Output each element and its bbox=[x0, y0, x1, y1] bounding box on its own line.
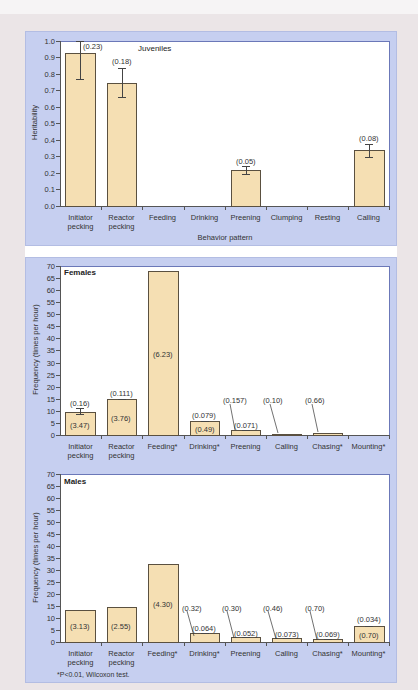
annotation: (0.069) bbox=[316, 630, 340, 639]
y-tick bbox=[56, 266, 61, 267]
y-tick bbox=[56, 606, 61, 607]
x-label-line: Reactor bbox=[101, 213, 142, 222]
x-tick bbox=[307, 206, 308, 210]
y-tick bbox=[56, 387, 61, 388]
x-label-line: pecking bbox=[101, 222, 142, 231]
x-label-line: Calling bbox=[266, 442, 307, 451]
error-cap bbox=[365, 144, 373, 145]
annotation: (0.10) bbox=[263, 396, 283, 405]
annotation: (0.079) bbox=[192, 411, 216, 420]
x-tick bbox=[389, 206, 390, 210]
x-label-chasing: Chasing* bbox=[307, 442, 348, 451]
error-bar bbox=[369, 144, 370, 157]
x-label-line: Resting bbox=[307, 213, 348, 222]
x-tick bbox=[184, 642, 185, 646]
y-tick bbox=[56, 522, 61, 523]
y-tick-label: 20 bbox=[31, 383, 55, 392]
x-label-clumping: Clumping bbox=[266, 213, 307, 222]
juveniles-y-axis bbox=[60, 41, 61, 207]
x-label-line: Drinking* bbox=[184, 649, 225, 658]
y-tick-label: 5 bbox=[31, 419, 55, 428]
error-cap bbox=[201, 633, 209, 634]
x-label-line: pecking bbox=[60, 451, 101, 460]
females-title: Females bbox=[64, 268, 96, 277]
juveniles-title: Juveniles bbox=[138, 44, 171, 53]
panel-gap bbox=[25, 246, 397, 257]
annotation: (0.157) bbox=[223, 396, 247, 405]
y-tick bbox=[56, 375, 61, 376]
annotation: (0.49) bbox=[195, 425, 215, 434]
y-tick-label: 30 bbox=[31, 359, 55, 368]
y-tick-label: 0.8 bbox=[31, 70, 55, 79]
x-label-line: Initiator bbox=[60, 213, 101, 222]
x-label-resting: Resting bbox=[307, 213, 348, 222]
y-tick-label: 60 bbox=[31, 286, 55, 295]
x-label-line: pecking bbox=[101, 451, 142, 460]
bar-calling bbox=[354, 150, 385, 207]
x-label-reactor-pecking: Reactorpecking bbox=[101, 649, 142, 667]
error-cap bbox=[76, 408, 84, 409]
y-tick bbox=[56, 474, 61, 475]
y-tick-label: 10 bbox=[31, 407, 55, 416]
x-label-drinking: Drinking* bbox=[184, 442, 225, 451]
annotation: (3.76) bbox=[111, 414, 131, 423]
error-cap bbox=[365, 626, 373, 627]
x-label-line: Mounting* bbox=[348, 442, 389, 451]
annotation: (0.70) bbox=[359, 631, 379, 640]
x-tick bbox=[142, 642, 143, 646]
annotation: (4.30) bbox=[153, 600, 173, 609]
error-bar bbox=[246, 166, 247, 174]
y-tick-label: 0.2 bbox=[31, 169, 55, 178]
y-tick bbox=[56, 314, 61, 315]
x-tick bbox=[266, 435, 267, 439]
y-tick-label: 15 bbox=[31, 395, 55, 404]
x-label-reactor-pecking: Reactorpecking bbox=[101, 213, 142, 231]
x-label-drinking: Drinking* bbox=[184, 649, 225, 658]
x-label-calling: Calling bbox=[266, 649, 307, 658]
bar-chasing bbox=[313, 433, 343, 436]
bar-reactor-pecking bbox=[107, 83, 137, 207]
footnote: *P<0.01, Wilcoxon test. bbox=[57, 671, 130, 678]
y-tick-label: 40 bbox=[31, 542, 55, 551]
males-title: Males bbox=[64, 477, 86, 486]
y-tick-label: 65 bbox=[31, 274, 55, 283]
annotation: (0.32) bbox=[182, 604, 202, 613]
x-label-drinking: Drinking bbox=[184, 213, 225, 222]
x-tick bbox=[348, 642, 349, 646]
x-label-line: Calling bbox=[266, 649, 307, 658]
y-tick-label: 35 bbox=[31, 554, 55, 563]
y-tick bbox=[56, 486, 61, 487]
y-tick-label: 15 bbox=[31, 602, 55, 611]
y-tick-label: 0.9 bbox=[31, 53, 55, 62]
x-tick bbox=[142, 206, 143, 210]
annotation: (0.071) bbox=[234, 421, 258, 430]
y-tick-label: 0.4 bbox=[31, 136, 55, 145]
x-label-line: Mounting* bbox=[348, 649, 389, 658]
x-tick bbox=[307, 435, 308, 439]
y-tick-label: 40 bbox=[31, 334, 55, 343]
y-tick-label: 0 bbox=[31, 431, 55, 440]
annotation: (0.034) bbox=[357, 615, 381, 624]
y-tick bbox=[56, 582, 61, 583]
x-tick bbox=[307, 642, 308, 646]
annotation: (0.08) bbox=[359, 134, 379, 143]
y-tick-label: 45 bbox=[31, 530, 55, 539]
annotation: (3.13) bbox=[70, 622, 90, 631]
x-label-line: Drinking bbox=[184, 213, 225, 222]
error-cap bbox=[242, 174, 250, 175]
x-label-line: Reactor bbox=[101, 442, 142, 451]
y-tick bbox=[56, 173, 61, 174]
x-label-preening: Preening bbox=[225, 213, 266, 222]
top-strip bbox=[0, 0, 418, 14]
y-tick-label: 30 bbox=[31, 566, 55, 575]
y-tick-label: 0.5 bbox=[31, 119, 55, 128]
x-label-line: pecking bbox=[101, 658, 142, 667]
x-tick bbox=[266, 642, 267, 646]
error-cap bbox=[324, 639, 332, 640]
error-cap bbox=[76, 79, 84, 80]
annotation: (0.05) bbox=[236, 157, 256, 166]
error-cap bbox=[118, 399, 126, 400]
x-label-line: Preening bbox=[225, 442, 266, 451]
x-tick bbox=[101, 642, 102, 646]
x-label-feeding: Feeding* bbox=[142, 649, 183, 658]
